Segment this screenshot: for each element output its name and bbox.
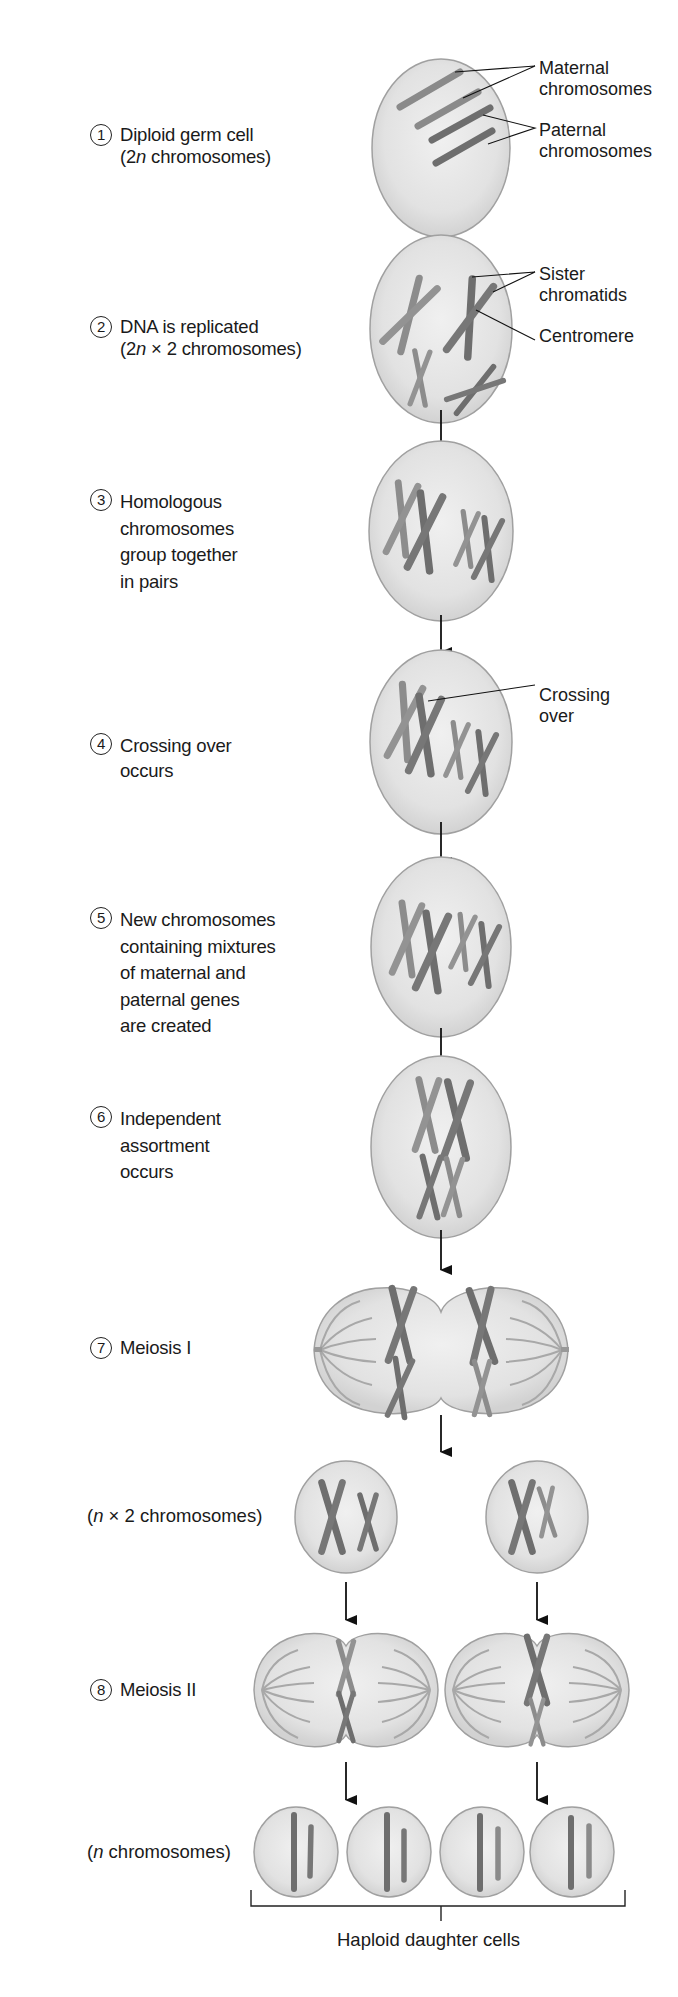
cell-dna-replicated [370, 235, 535, 423]
cell-n-times-2-right [486, 1461, 588, 1573]
cell-crossing-over [370, 650, 535, 834]
cell-recombinant-chromosomes [371, 857, 511, 1037]
meiosis-diagram [0, 0, 678, 1997]
cell-meiosis-ii-left [254, 1634, 438, 1747]
cell-homologous-pairs [369, 441, 513, 621]
haploid-cell-2 [347, 1807, 431, 1897]
cell-meiosis-i [314, 1288, 569, 1418]
haploid-cell-4 [530, 1807, 614, 1897]
haploid-cell-3 [440, 1807, 524, 1897]
cell-diploid-germ [372, 59, 535, 237]
cell-independent-assortment [371, 1056, 511, 1238]
cell-meiosis-ii-right [445, 1634, 629, 1747]
cell-n-times-2-left [295, 1461, 397, 1573]
haploid-cell-1 [254, 1807, 338, 1897]
